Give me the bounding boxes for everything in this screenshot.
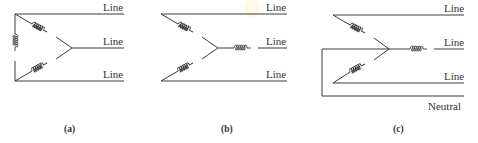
coil-icon: [349, 22, 366, 35]
coil-icon: [177, 60, 194, 73]
panel-caption: (b): [221, 124, 233, 135]
coil-icon: [31, 21, 48, 34]
coil-icon: [13, 34, 18, 51]
panel-caption: (c): [393, 124, 404, 135]
line-label: Line: [266, 68, 286, 80]
line-label: Line: [444, 70, 464, 82]
coil-icon: [349, 61, 366, 74]
line-label: Line: [444, 2, 464, 14]
three-phase-connection-diagram: Line Line Line (a) Line Line Line (b): [0, 0, 478, 143]
coil-icon: [177, 21, 194, 34]
coil-icon: [31, 60, 48, 73]
line-label: Line: [266, 1, 286, 13]
coil-icon: [234, 45, 251, 50]
neutral-wire: [322, 49, 464, 96]
line-label: Line: [444, 36, 464, 48]
neutral-label: Neutral: [428, 100, 461, 112]
coil-icon: [410, 46, 427, 51]
line-label: Line: [103, 68, 123, 80]
panel-a-delta: Line Line Line (a): [13, 1, 124, 135]
panel-c-wye-neutral: Line Line Line Neutral (c): [322, 2, 464, 135]
line-label: Line: [266, 35, 286, 47]
line-label: Line: [103, 35, 123, 47]
line-label: Line: [103, 1, 123, 13]
panel-caption: (a): [64, 124, 75, 135]
panel-b-wye: Line Line Line (b): [161, 0, 287, 135]
